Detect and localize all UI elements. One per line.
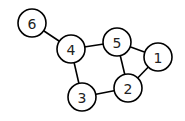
node-1: 1	[144, 43, 172, 71]
node-label: 4	[67, 42, 76, 58]
node-label: 2	[124, 81, 133, 97]
node-label: 5	[113, 35, 122, 51]
node-label: 3	[78, 90, 87, 106]
node-4: 4	[57, 35, 85, 63]
node-label: 1	[154, 50, 163, 66]
node-5: 5	[103, 28, 131, 56]
node-6: 6	[18, 9, 46, 37]
nodes-group: 123456	[18, 9, 172, 111]
graph-diagram: 123456	[0, 0, 185, 121]
node-label: 6	[28, 16, 37, 32]
node-2: 2	[114, 74, 142, 102]
node-3: 3	[68, 83, 96, 111]
